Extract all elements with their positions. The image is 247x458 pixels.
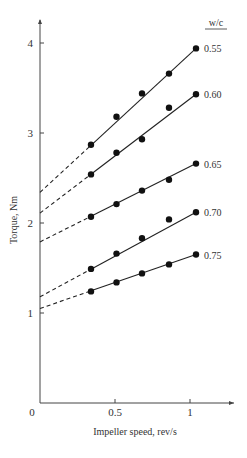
data-point xyxy=(88,171,94,177)
data-point xyxy=(166,70,172,76)
data-point xyxy=(88,214,94,220)
series-label: 0.60 xyxy=(204,89,222,100)
data-point xyxy=(139,136,145,142)
y-tick-label: 3 xyxy=(28,127,34,139)
data-point xyxy=(88,142,94,148)
y-axis-arrow-icon xyxy=(38,19,42,24)
data-point xyxy=(139,90,145,96)
data-point xyxy=(193,160,199,166)
x-axis-arrow-icon xyxy=(229,401,234,405)
y-tick-label: 2 xyxy=(28,217,34,229)
extrapolation-line xyxy=(40,216,91,242)
data-point xyxy=(88,288,94,294)
extrapolation-line xyxy=(40,174,91,213)
data-point xyxy=(113,201,119,207)
data-point xyxy=(113,279,119,285)
data-point xyxy=(166,216,172,222)
series-label: 0.55 xyxy=(204,43,222,54)
data-point xyxy=(166,105,172,111)
data-point xyxy=(113,114,119,120)
data-point xyxy=(88,266,94,272)
data-point xyxy=(113,150,119,156)
series-lines: 0.550.600.650.700.75 xyxy=(40,43,222,308)
x-tick-label: 1 xyxy=(187,406,193,418)
series-label: 0.70 xyxy=(204,207,222,218)
y-axis-title: Torque, Nm xyxy=(8,196,19,244)
fit-line xyxy=(91,94,196,174)
data-point xyxy=(139,187,145,193)
x-tick-label: 0 xyxy=(29,406,35,418)
data-point xyxy=(193,45,199,51)
series-0.75: 0.75 xyxy=(40,250,222,309)
data-point xyxy=(193,209,199,215)
axis-labels: 00.511234Impeller speed, rev/sTorque, Nm… xyxy=(8,17,227,437)
series-0.55: 0.55 xyxy=(40,43,222,192)
chart-svg: 0.550.600.650.700.75 00.511234Impeller s… xyxy=(0,0,247,458)
data-point xyxy=(139,270,145,276)
fit-line xyxy=(91,48,196,145)
x-axis-title: Impeller speed, rev/s xyxy=(93,426,177,437)
data-point xyxy=(193,251,199,257)
data-point xyxy=(193,91,199,97)
extrapolation-line xyxy=(40,145,91,192)
data-point xyxy=(113,250,119,256)
torque-vs-speed-chart: 0.550.600.650.700.75 00.511234Impeller s… xyxy=(0,0,247,458)
extrapolation-line xyxy=(40,291,91,309)
data-point xyxy=(166,177,172,183)
series-label: 0.65 xyxy=(204,159,222,170)
data-point xyxy=(166,261,172,267)
extrapolation-line xyxy=(40,269,91,297)
series-label: 0.75 xyxy=(204,250,222,261)
y-tick-label: 4 xyxy=(28,37,34,49)
series-0.65: 0.65 xyxy=(40,159,222,242)
legend-title: w/c xyxy=(209,17,224,28)
data-point xyxy=(139,235,145,241)
y-tick-label: 1 xyxy=(28,307,34,319)
x-tick-label: 0.5 xyxy=(108,406,122,418)
series-0.60: 0.60 xyxy=(40,89,222,213)
